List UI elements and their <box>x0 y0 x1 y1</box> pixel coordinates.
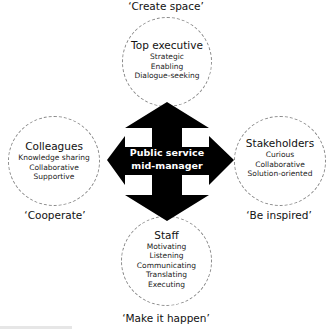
center-line: mid-manager <box>117 159 217 172</box>
source-citation-cropped <box>0 326 72 329</box>
center-label-mid-manager: Public service mid-manager <box>117 146 217 172</box>
center-line: Public service <box>117 146 217 159</box>
